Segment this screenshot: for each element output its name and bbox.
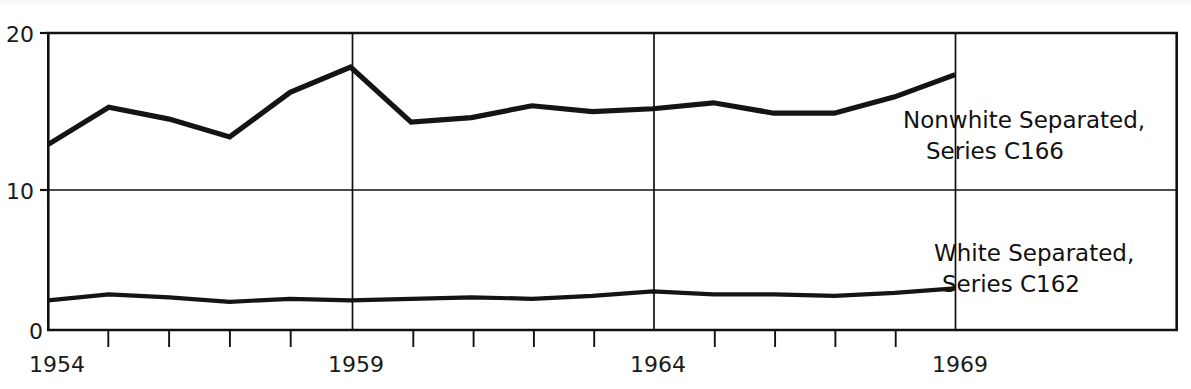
x-axis-label-1959: 1959 xyxy=(328,352,384,377)
annotation-white-line1: White Separated, xyxy=(934,240,1134,266)
annotation-nonwhite-separated: Nonwhite Separated, Series C166 xyxy=(903,107,1145,164)
gridlines-vertical xyxy=(353,33,956,330)
annotation-white-line2: Series C162 xyxy=(942,271,1080,297)
x-axis-label-1964: 1964 xyxy=(630,352,686,377)
chart-figure: 20 10 0 1954 1959 1964 1969 Nonwhite Sep… xyxy=(0,0,1191,389)
y-axis-label-20: 20 xyxy=(6,22,34,47)
x-axis-label-1969: 1969 xyxy=(932,352,988,377)
axis-labels: 20 10 0 1954 1959 1964 1969 xyxy=(6,22,988,377)
line-chart-canvas: 20 10 0 1954 1959 1964 1969 Nonwhite Sep… xyxy=(0,0,1191,389)
x-axis-label-1954: 1954 xyxy=(29,352,85,377)
annotation-nonwhite-line2: Series C166 xyxy=(926,138,1064,164)
annotation-white-separated: White Separated, Series C162 xyxy=(934,240,1134,297)
y-tick-marks xyxy=(40,33,48,190)
series-line-nonwhite-separated xyxy=(48,67,955,144)
series-lines xyxy=(48,67,955,302)
y-axis-label-10: 10 xyxy=(6,179,34,204)
annotation-nonwhite-line1: Nonwhite Separated, xyxy=(903,107,1145,133)
y-axis-label-0: 0 xyxy=(29,319,43,344)
series-line-white-separated xyxy=(48,288,955,301)
x-minor-ticks xyxy=(108,330,895,347)
